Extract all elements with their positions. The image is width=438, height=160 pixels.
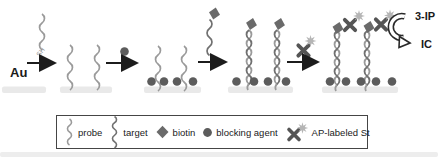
electrode-surface: [322, 87, 398, 94]
assay-scheme-figure: Au SH: [0, 0, 438, 160]
legend: probe target biotin blocking agent: [56, 115, 368, 149]
probe-squiggle-icon: [64, 118, 75, 146]
legend-item-probe: probe: [64, 118, 102, 146]
stage-hybridized-target: [228, 17, 293, 93]
legend-label: AP-labeled St: [312, 127, 370, 138]
blocking-agent-dot-icon: [202, 127, 213, 138]
legend-item-blocking-agent: blocking agent: [202, 127, 277, 138]
ap-labeled-st-icon: [285, 122, 309, 143]
substrate-label: 3-IP: [415, 10, 435, 22]
biotin-diamond-icon: [155, 125, 170, 139]
immobilized-probes: [156, 46, 187, 91]
stage-immobilized-probes: [60, 45, 112, 93]
electrode-surface: [144, 87, 201, 94]
legend-label: biotin: [173, 127, 196, 138]
electrode-surface: [60, 87, 112, 94]
legend-item-biotin: biotin: [155, 125, 196, 139]
biotin-diamond-icon: [208, 6, 222, 20]
step-hybridization: [198, 6, 226, 62]
legend-label: probe: [78, 127, 102, 138]
electrode-surface: [228, 87, 293, 94]
gold-surface: [2, 87, 46, 94]
sh-label: SH: [35, 46, 46, 58]
stage-detection-complex: [322, 10, 398, 94]
ap-labeled-st-icon: [298, 35, 316, 56]
biotin-diamond-icon: [245, 17, 259, 32]
conversion-arrow: [391, 16, 410, 48]
legend-label: target: [123, 127, 147, 138]
au-label: Au: [10, 65, 27, 80]
step-blocking: [106, 47, 137, 63]
legend-item-ap-labeled-st: AP-labeled St: [285, 122, 370, 143]
biotin-diamond-icon: [273, 17, 287, 32]
stage-bare-electrode: Au: [2, 65, 46, 93]
blocking-agent-layer: [232, 77, 290, 86]
step-ap-st-binding: [287, 35, 318, 62]
scheme-diagram: Au SH: [0, 0, 438, 112]
target-biotin-conjugate: [207, 6, 221, 55]
thiolated-probe: SH: [35, 14, 46, 58]
stage-blocked-surface: [144, 46, 201, 93]
streptavidin-x-icon: [376, 19, 386, 29]
legend-item-target: target: [109, 116, 147, 149]
target-squiggle-icon: [109, 116, 120, 149]
streptavidin-x-icon: [345, 20, 355, 30]
product-label: IC: [421, 38, 432, 50]
legend-label: blocking agent: [216, 127, 277, 138]
blocking-agent-dot-icon: [120, 47, 129, 56]
scan-artifact-strip: [0, 152, 438, 157]
blocking-agent-layer: [147, 77, 197, 86]
immobilized-probes: [68, 45, 100, 90]
